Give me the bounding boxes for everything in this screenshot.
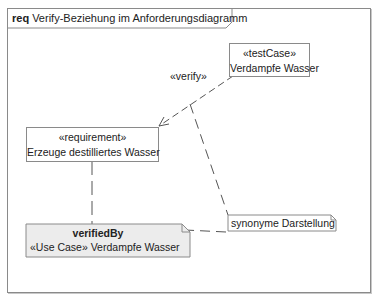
diagram-name: Verify-Beziehung im Anforderungsdiagramm	[32, 12, 247, 24]
requirement-stereotype: «requirement»	[27, 130, 158, 145]
verify-label: «verify»	[170, 70, 207, 82]
diagram-title: reqVerify-Beziehung im Anforderungsdiagr…	[12, 12, 247, 24]
requirement-name: Erzeuge destilliertes Wasser	[27, 145, 158, 160]
verified-by-heading: verifiedBy	[26, 226, 190, 240]
verified-by-note[interactable]: verifiedBy «Use Case» Verdampfe Wasser	[26, 226, 190, 254]
test-case-block[interactable]: «testCase» Verdampfe Wasser	[229, 43, 310, 77]
test-case-name: Verdampfe Wasser	[230, 61, 309, 76]
verified-by-text: «Use Case» Verdampfe Wasser	[26, 240, 190, 254]
test-case-stereotype: «testCase»	[230, 46, 309, 61]
synonym-note[interactable]: synonyme Darstellung	[231, 216, 335, 230]
diagram-kind: req	[12, 12, 29, 24]
requirement-block[interactable]: «requirement» Erzeuge destilliertes Wass…	[26, 127, 159, 162]
synonym-note-text: synonyme Darstellung	[231, 216, 335, 230]
